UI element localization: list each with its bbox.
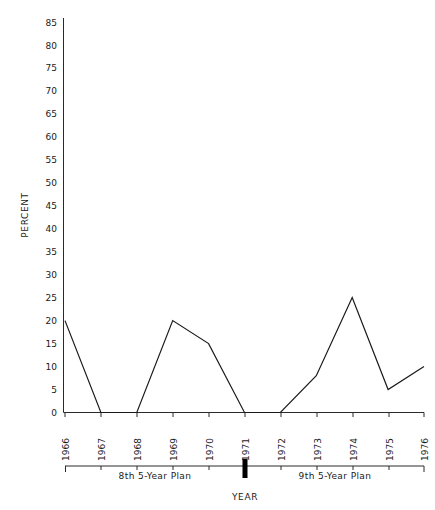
y-tick-label: 60 <box>46 132 58 142</box>
y-tick-label: 35 <box>46 247 57 257</box>
x-tick-label: 1966 <box>61 438 71 461</box>
y-tick-label: 40 <box>46 224 58 234</box>
x-tick-label: 1968 <box>133 438 143 461</box>
y-tick-label: 55 <box>46 155 57 165</box>
y-tick-label: 85 <box>46 18 57 28</box>
y-tick-label: 10 <box>46 362 58 372</box>
y-tick-label: 65 <box>46 109 57 119</box>
x-tick-labels: 1966 1967 1968 1969 1970 1971 1972 1973 … <box>61 438 430 461</box>
chart-figure: 85 80 75 70 65 60 55 50 45 40 35 30 25 2… <box>0 0 435 510</box>
x-tick-label: 1970 <box>205 438 215 461</box>
y-tick-label: 70 <box>46 86 58 96</box>
x-tick-label: 1972 <box>277 438 287 461</box>
x-tick-label: 1976 <box>420 438 430 461</box>
y-tick-label: 80 <box>46 41 58 51</box>
y-tick-label: 5 <box>51 385 57 395</box>
x-tick-label: 1967 <box>97 438 107 461</box>
x-tick-label: 1975 <box>385 438 395 461</box>
x-tick-label: 1969 <box>169 438 179 461</box>
chart-svg: 85 80 75 70 65 60 55 50 45 40 35 30 25 2… <box>0 0 435 510</box>
plan-band-label-8th: 8th 5-Year Plan <box>119 471 192 481</box>
y-axis-title: PERCENT <box>20 192 30 237</box>
y-tick-label: 20 <box>46 316 58 326</box>
x-tick-label: 1974 <box>349 438 359 461</box>
y-tick-label: 0 <box>51 408 57 418</box>
y-tick-label: 75 <box>46 63 57 73</box>
y-tick-label: 45 <box>46 201 57 211</box>
y-tick-label: 50 <box>46 178 58 188</box>
y-tick-label: 30 <box>46 270 58 280</box>
plan-divider-mark <box>243 459 248 478</box>
y-tick-label: 25 <box>46 293 57 303</box>
x-axis-ticks <box>65 413 424 418</box>
x-tick-label: 1973 <box>313 438 323 461</box>
plan-band-label-9th: 9th 5-Year Plan <box>299 471 372 481</box>
x-axis-title: YEAR <box>231 492 258 502</box>
y-tick-labels: 85 80 75 70 65 60 55 50 45 40 35 30 25 2… <box>46 18 58 418</box>
data-series-line <box>65 298 424 413</box>
x-tick-label: 1971 <box>241 438 251 461</box>
y-tick-label: 15 <box>46 339 57 349</box>
